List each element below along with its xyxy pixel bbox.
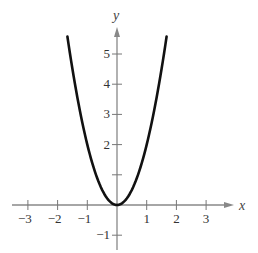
- y-tick-label: 4: [104, 76, 111, 91]
- x-tick-label: −2: [48, 211, 62, 226]
- y-tick-label: 2: [104, 137, 111, 152]
- x-axis-arrow-icon: [224, 202, 234, 208]
- x-tick-label: 2: [173, 211, 180, 226]
- x-tick-label: 1: [143, 211, 150, 226]
- y-axis-label: y: [111, 8, 120, 23]
- y-axis-arrow-icon: [114, 27, 120, 37]
- y-tick-label: 5: [104, 46, 111, 61]
- y-ticks: −12345: [96, 46, 122, 242]
- x-tick-label: 3: [203, 211, 210, 226]
- y-tick-label: −1: [96, 227, 110, 242]
- parabola-chart: x y −3−2−1123 −12345: [0, 0, 258, 253]
- x-tick-label: −1: [77, 211, 91, 226]
- y-tick-label: 3: [104, 106, 111, 121]
- x-axis-label: x: [238, 198, 246, 213]
- x-tick-label: −3: [18, 211, 32, 226]
